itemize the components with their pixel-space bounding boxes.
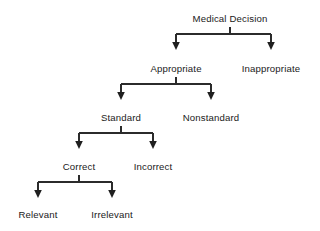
- arrow-head-irrelevant-icon: [108, 190, 116, 198]
- decision-tree-diagram: Medical Decision Appropriate Inappropria…: [0, 0, 320, 231]
- arrow-head-relevant-icon: [34, 190, 42, 198]
- branch-correct: [34, 175, 116, 198]
- arrow-head-nonstandard-icon: [207, 92, 215, 100]
- node-label-incorrect: Incorrect: [134, 161, 173, 172]
- node-label-appropriate: Appropriate: [150, 63, 201, 74]
- branch-standard: [75, 126, 157, 149]
- branch-appropriate: [117, 77, 215, 100]
- branch-medical-decision: [172, 27, 275, 50]
- arrow-head-standard-icon: [117, 92, 125, 100]
- node-label-irrelevant: Irrelevant: [91, 209, 133, 220]
- node-label-correct: Correct: [63, 161, 96, 172]
- node-label-medical-decision: Medical Decision: [193, 13, 268, 24]
- arrow-head-incorrect-icon: [149, 141, 157, 149]
- node-label-relevant: Relevant: [18, 209, 57, 220]
- arrow-head-appropriate-icon: [172, 42, 180, 50]
- node-label-standard: Standard: [101, 112, 141, 123]
- tree-svg-canvas: Medical Decision Appropriate Inappropria…: [0, 0, 320, 231]
- node-label-inappropriate: Inappropriate: [242, 63, 301, 74]
- arrow-head-correct-icon: [75, 141, 83, 149]
- node-label-nonstandard: Nonstandard: [183, 112, 240, 123]
- arrow-head-inappropriate-icon: [267, 42, 275, 50]
